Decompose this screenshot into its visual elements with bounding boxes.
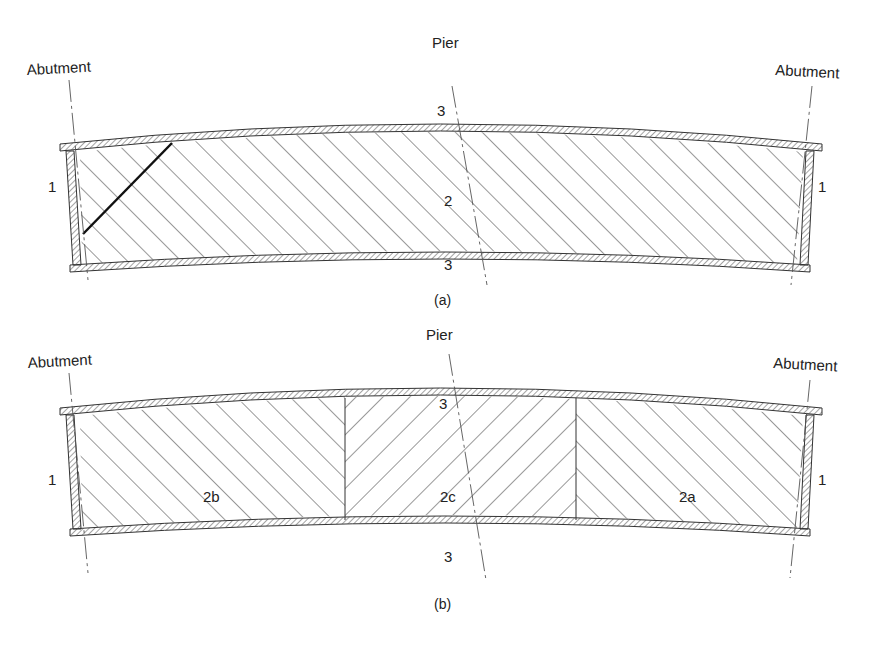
pier-label: Pier <box>432 34 459 51</box>
top-flange-number: 3 <box>437 102 445 119</box>
right-abutment-label-b: Abutment <box>773 354 839 374</box>
pier-label-b: Pier <box>426 326 453 343</box>
bridge-diagram: Abutment Abutment Pier 1 1 3 3 2 (a) <box>0 0 883 651</box>
caption-a: (a) <box>434 292 451 308</box>
web-number: 2 <box>444 192 452 209</box>
left-wall-number-b: 1 <box>48 471 56 488</box>
bottom-flange-number: 3 <box>444 256 452 273</box>
top-flange-number-b: 3 <box>439 395 447 412</box>
web-middle-number: 2c <box>440 488 456 505</box>
left-wall-number: 1 <box>48 178 56 195</box>
right-wall-number-b: 1 <box>818 471 826 488</box>
right-wall-number: 1 <box>818 178 826 195</box>
panel-a: Abutment Abutment Pier 1 1 3 3 2 (a) <box>26 34 840 308</box>
left-abutment-label-b: Abutment <box>27 351 93 371</box>
left-abutment-label: Abutment <box>26 58 92 78</box>
bottom-flange-number-b: 3 <box>444 548 452 565</box>
web-right-number: 2a <box>679 488 696 505</box>
left-end-wall <box>66 151 81 265</box>
web-left-number: 2b <box>203 488 220 505</box>
caption-b: (b) <box>434 596 451 612</box>
panel-b: Abutment Abutment Pier 1 1 3 3 2b 2c 2a … <box>27 326 838 612</box>
right-abutment-label: Abutment <box>775 61 841 81</box>
